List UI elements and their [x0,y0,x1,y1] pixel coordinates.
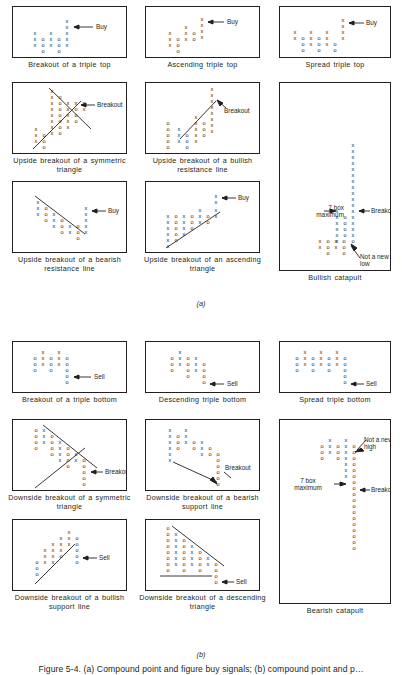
svg-text:o: o [351,238,354,244]
breakout-label: Breakout [371,207,391,214]
svg-text:x: x [215,199,218,205]
svg-text:x: x [50,42,53,48]
svg-text:o: o [65,379,68,385]
svg-text:x: x [69,229,72,235]
svg-text:o: o [320,455,323,461]
chart-frame: xxx ooo xxx ooo xx ooo xxxxx Buy [12,181,127,253]
chart-frame: xxxxxx ooo xxx oo xxx oo oooooo Breakout [145,419,260,491]
panel-caption: Spread triple top [273,61,397,70]
svg-text:o: o [317,47,320,53]
svg-text:x: x [59,457,62,463]
svg-text:x: x [169,42,172,48]
panel-caption: Downside breakout of a bearish support l… [139,494,266,511]
svg-text:x: x [43,439,46,445]
chart-ink: xxx ooo xxx ooo xxxxx [13,7,127,58]
svg-text:o: o [192,445,195,451]
svg-text:o: o [192,36,195,42]
svg-text:o: o [185,144,188,150]
chart-frame: ooo xxx oooo xxx oooo Sell [145,341,260,393]
svg-text:o: o [58,130,61,136]
breakout-label: Breakout [105,468,127,475]
svg-text:x: x [185,439,188,445]
svg-text:x: x [195,138,198,144]
svg-text:x: x [68,541,71,547]
svg-text:x: x [342,35,345,41]
svg-text:x: x [44,559,47,565]
svg-text:o: o [166,567,169,573]
svg-text:o: o [176,48,179,54]
svg-text:x: x [52,559,55,565]
chart-ink: xxx ooo xxx oo xxxx [146,7,260,58]
svg-text:x: x [66,42,69,48]
chart-frame: ooo xxx ooo xxx ooo xxx ooooo Sell [279,341,391,393]
chart-ink: oooo xxx oooo xxx x oooo xx ooooo [13,420,127,491]
panel-caption: Spread triple bottom [273,396,397,405]
panel-caption: Upside breakout of a symmetric triangle [6,157,133,174]
svg-text:x: x [42,361,45,367]
svg-text:o: o [170,367,173,373]
svg-text:x: x [58,361,61,367]
buy-label: Buy [108,207,119,214]
chart-frame: xxx ooo xxx oo xxxx Buy [145,6,260,58]
svg-text:x: x [211,128,214,134]
svg-text:o: o [35,571,38,577]
sell-label: Sell [99,554,110,561]
svg-text:o: o [44,217,47,223]
svg-text:o: o [66,463,69,469]
svg-text:x: x [310,41,313,47]
svg-text:x: x [326,41,329,47]
svg-text:x: x [294,35,297,41]
svg-text:x: x [345,473,348,479]
panel-caption: Bullish catapult [273,274,397,283]
svg-text:o: o [75,559,78,565]
panel-caption: Descending triple bottom [139,396,266,405]
buy-label: Buy [96,23,107,30]
svg-text:x: x [304,361,307,367]
svg-text:o: o [34,445,37,451]
svg-text:x: x [75,457,78,463]
svg-text:x: x [169,457,172,463]
svg-text:x: x [175,561,178,567]
svg-text:x: x [320,361,323,367]
chart-ink: xxx ooo xxxxxxxx ooooooo xxxxx ooo x xx [13,83,127,154]
svg-text:x: x [336,361,339,367]
chart-frame: xxx ooo xxx ooo xxxxx Buy [12,6,127,58]
panel-caption: Upside breakout of an ascending triangle [139,256,266,273]
svg-text:o: o [76,235,79,241]
svg-text:x: x [195,367,198,373]
chart-ink: xxx ooo xxx ooo xx ooo xxxxx [13,182,127,253]
chart-ink: ooo xxx oooo xxx oooo [146,342,260,393]
figure-caption: Figure 5-4. (a) Compound point and figur… [0,664,402,674]
breakout-label: Breakout [225,464,251,471]
chart-frame: xxx ooo xxxxxxxx ooooooo xxxxx ooo x xx … [12,82,127,154]
buy-label: Buy [366,19,377,26]
panel-caption: Breakout of a triple bottom [4,396,135,405]
svg-text:x: x [35,138,38,144]
svg-text:o: o [50,451,53,457]
panel-caption: Upside breakout of a bearish resistance … [6,256,133,273]
svg-text:o: o [343,379,346,385]
svg-text:o: o [186,373,189,379]
svg-text:o: o [333,47,336,53]
svg-text:x: x [53,223,56,229]
svg-text:x: x [201,451,204,457]
svg-text:o: o [82,481,85,487]
chart-ink: xxx ooo xxx xxx xx ooo x oo ox [13,520,127,591]
buy-label: Buy [227,18,238,25]
panel-caption: Bearish catapult [273,607,397,616]
svg-text:o: o [327,367,330,373]
chart-ink: ooo xxx ooo xxx ooooo [13,342,127,393]
chart-frame: xxx ooo xxx xxx xx ooo x oo ox Sell [12,519,127,591]
svg-text:o: o [214,579,217,585]
svg-text:x: x [85,229,88,235]
svg-text:o: o [202,132,205,138]
svg-text:o: o [295,367,298,373]
svg-text:o: o [311,367,314,373]
svg-text:x: x [37,211,40,217]
svg-text:o: o [166,144,169,150]
breakout-label: Breakout [224,107,250,114]
panel-caption: Downside breakout of a symmetric triangl… [6,494,133,511]
svg-text:x: x [67,124,70,130]
svg-text:x: x [207,561,210,567]
svg-text:o: o [57,48,60,54]
